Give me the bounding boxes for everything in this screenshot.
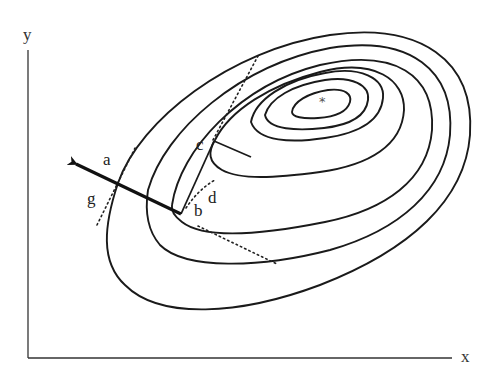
optimum-star-icon: * <box>319 94 326 109</box>
path-c-segment <box>214 141 251 157</box>
y-axis-label: y <box>23 25 32 44</box>
label-g: g <box>87 189 96 208</box>
label-c: c <box>196 135 204 154</box>
label-a: a <box>103 150 111 169</box>
contour-1 <box>107 32 470 309</box>
contour-lines <box>107 32 470 309</box>
label-b: b <box>194 201 203 220</box>
label-d: d <box>208 188 217 207</box>
tangent-line-c <box>213 56 258 140</box>
contour-diagram: y x * a g b c d <box>0 0 496 373</box>
x-axis-label: x <box>461 347 470 366</box>
